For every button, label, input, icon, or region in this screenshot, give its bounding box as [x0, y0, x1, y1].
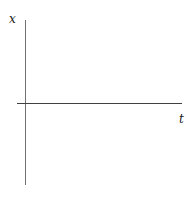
t-axis-label: t: [179, 113, 184, 125]
horizontal-axis: [17, 103, 182, 104]
x-axis-label: x: [9, 13, 16, 25]
